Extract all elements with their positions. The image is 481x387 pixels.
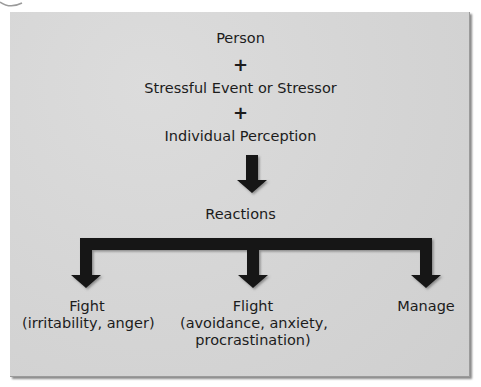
outcome-manage-title: Manage: [386, 298, 466, 315]
branch-bracket-icon: [71, 238, 441, 288]
outcome-fight-title: Fight: [22, 298, 152, 315]
outcome-flight-title: Flight: [180, 298, 326, 315]
down-arrow-icon: [237, 155, 267, 193]
outcome-flight-detail-2: procrastination): [180, 332, 326, 349]
outcome-fight-detail: (irritability, anger): [22, 315, 152, 332]
outcome-flight-detail-1: (avoidance, anxiety,: [180, 315, 326, 332]
node-reactions: Reactions: [0, 206, 481, 223]
